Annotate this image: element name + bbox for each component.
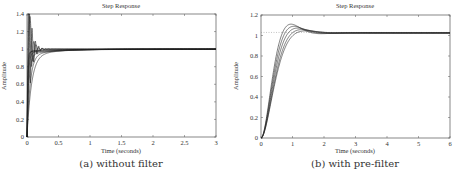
series-line-response-8 <box>27 49 216 137</box>
series-line-response-3 <box>261 28 450 138</box>
x-tick-label: 3 <box>354 140 357 147</box>
series-line-response-3 <box>27 16 216 137</box>
y-tick-label: 0.8 <box>16 63 24 70</box>
x-tick-label: 5 <box>417 140 420 147</box>
y-tick-label: 0.4 <box>16 98 25 105</box>
x-tick-label: 1.5 <box>117 139 125 146</box>
y-tick-label: 0.4 <box>250 93 259 100</box>
series-line-response-5 <box>261 31 450 138</box>
plot-frame <box>261 15 450 138</box>
x-tick-label: 1 <box>88 139 91 146</box>
x-tick-label: 0 <box>25 139 28 146</box>
y-tick-label: 0 <box>21 133 24 140</box>
x-tick-label: 2 <box>322 140 325 147</box>
y-tick-label: 0.6 <box>250 73 259 80</box>
y-tick-label: 1.4 <box>16 10 25 17</box>
y-tick-label: 1 <box>21 45 24 52</box>
series-line-response-7 <box>27 49 216 137</box>
y-tick-label: 1.2 <box>16 28 24 35</box>
series-line-response-4 <box>27 49 216 137</box>
series-line-response-4 <box>261 30 450 138</box>
chart-title: Step Response <box>336 2 374 9</box>
series-line-response-5 <box>27 49 216 137</box>
series-line-response-2 <box>261 26 450 138</box>
caption: (b) with pre-filter <box>311 158 399 169</box>
series-line-response-6 <box>27 49 216 137</box>
y-tick-label: 0 <box>255 134 258 141</box>
x-tick-label: 2 <box>151 139 154 146</box>
y-tick-label: 0.6 <box>16 80 25 87</box>
panel-with-prefilter: Step Response Time (seconds) Amplitude (… <box>232 2 452 169</box>
x-tick-label: 3 <box>214 139 217 146</box>
plot-frame <box>27 14 216 137</box>
x-axis-label: Time (seconds) <box>335 147 375 155</box>
y-axis-label: Amplitude <box>232 62 239 90</box>
y-tick-label: 1.2 <box>250 11 258 18</box>
x-tick-label: 0 <box>259 140 262 147</box>
caption: (a) without filter <box>79 158 163 169</box>
series-line-response-1 <box>261 24 450 138</box>
x-tick-label: 1 <box>291 140 294 147</box>
x-tick-label: 0.5 <box>54 139 62 146</box>
x-axis-label: Time (seconds) <box>101 147 141 155</box>
x-tick-label: 2.5 <box>180 139 188 146</box>
panel-without-filter: Step Response Time (seconds) Amplitude (… <box>0 2 218 169</box>
y-tick-label: 0.2 <box>250 114 258 121</box>
series-line-response-1 <box>27 14 216 137</box>
x-tick-label: 6 <box>448 140 452 147</box>
x-tick-label: 4 <box>385 140 389 147</box>
y-tick-label: 0.2 <box>16 116 24 123</box>
y-tick-label: 0.8 <box>250 52 258 59</box>
chart-title: Step Response <box>102 2 140 9</box>
series-line-response-9 <box>27 49 216 137</box>
figure: Step Response Time (seconds) Amplitude (… <box>0 0 454 174</box>
y-axis-label: Amplitude <box>0 62 7 90</box>
series-line-response-2 <box>27 14 216 137</box>
y-tick-label: 1 <box>255 32 258 39</box>
